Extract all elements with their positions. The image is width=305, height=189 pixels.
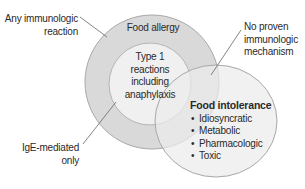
label-line: only bbox=[4, 155, 79, 168]
label-line: IgE-mediated bbox=[4, 142, 79, 155]
label-ige-mediated: IgE-mediated only bbox=[4, 142, 79, 167]
label-food-allergy: Food allergy bbox=[100, 22, 206, 35]
list-item: Idiosyncratic bbox=[190, 113, 300, 126]
food-intolerance-list: Idiosyncratic Metabolic Pharmacologic To… bbox=[190, 113, 300, 163]
list-item: Toxic bbox=[190, 150, 300, 163]
label-line: Type 1 bbox=[104, 51, 196, 64]
food-intolerance-box: Food intolerance Idiosyncratic Metabolic… bbox=[190, 99, 300, 163]
list-item: Pharmacologic bbox=[190, 138, 300, 151]
label-line: reaction bbox=[4, 26, 78, 39]
label-line: mechanism bbox=[244, 46, 304, 59]
label-line: immunologic bbox=[244, 34, 304, 47]
label-line: Any immunologic bbox=[4, 13, 78, 26]
label-line: including bbox=[104, 76, 196, 89]
label-no-proven: No proven immunologic mechanism bbox=[244, 21, 304, 59]
label-line: reactions bbox=[104, 64, 196, 77]
label-line: No proven bbox=[244, 21, 304, 34]
label-type1: Type 1 reactions including anaphylaxis bbox=[104, 51, 196, 101]
list-item: Metabolic bbox=[190, 125, 300, 138]
food-intolerance-title: Food intolerance bbox=[190, 99, 300, 112]
label-line: anaphylaxis bbox=[104, 89, 196, 102]
label-any-immunologic: Any immunologic reaction bbox=[4, 13, 78, 38]
